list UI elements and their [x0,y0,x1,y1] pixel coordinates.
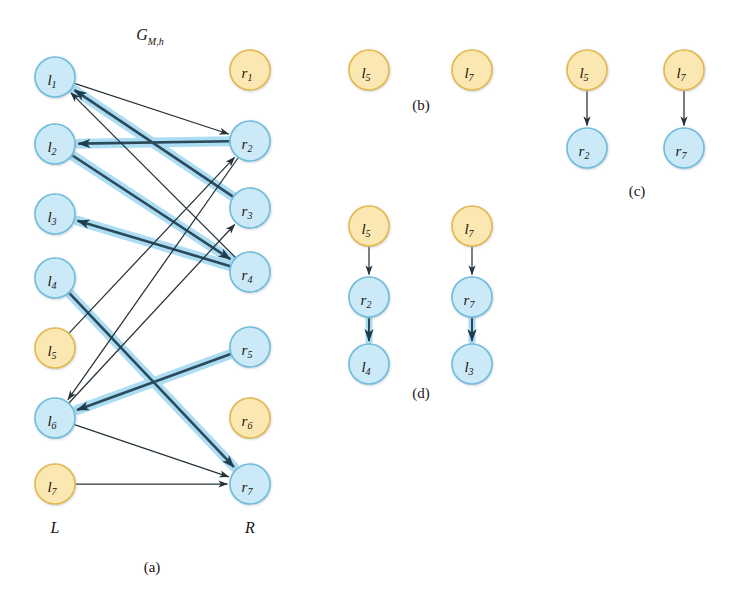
node-circle [664,128,704,168]
node-l6[interactable]: l6 [35,398,75,438]
node-subscript: 5 [247,349,252,360]
node-subscript: 4 [52,280,57,291]
node-l7[interactable]: l7 [35,464,75,504]
node-r3[interactable]: r3 [230,188,270,228]
node-circle [567,50,607,90]
node-circle [230,327,270,367]
node-c-l7[interactable]: l7 [664,50,704,90]
node-d-l5[interactable]: l5 [349,206,389,246]
node-subscript: 2 [584,150,589,161]
node-subscript: 6 [52,420,57,431]
node-circle [230,188,270,228]
node-circle [452,206,492,246]
node-subscript: 3 [51,216,57,227]
node-circle [349,277,389,317]
node-l3[interactable]: l3 [35,194,75,234]
node-d-l4[interactable]: l4 [349,344,389,384]
node-subscript: 2 [52,146,57,157]
node-subscript: 4 [247,274,252,285]
node-l5[interactable]: l5 [35,328,75,368]
node-c-l5[interactable]: l5 [567,50,607,90]
node-c-r2[interactable]: r2 [567,128,607,168]
node-circle [230,398,270,438]
node-circle [349,344,389,384]
node-d-r2[interactable]: r2 [349,277,389,317]
node-circle [452,277,492,317]
figure-canvas: l1l2l3l4l5l6l7r1r2r3r4r5r6r7l5l7l5r2l7r7… [0,0,730,600]
node-subscript: 1 [247,72,252,83]
node-layer: l1l2l3l4l5l6l7r1r2r3r4r5r6r7l5l7l5r2l7r7… [35,50,704,504]
figure-title: GM,h [136,26,163,47]
node-circle [452,50,492,90]
node-subscript: 3 [468,366,474,377]
node-subscript: 5 [366,72,371,83]
node-circle [35,194,75,234]
node-b-l7[interactable]: l7 [452,50,492,90]
node-circle [230,252,270,292]
edge-r5-to-l6 [77,354,231,410]
node-subscript: 5 [584,72,589,83]
node-circle [349,206,389,246]
node-r7[interactable]: r7 [230,464,270,504]
node-circle [664,50,704,90]
panel-d-caption: (d) [412,385,430,402]
panel-a-caption: (a) [144,559,161,576]
node-subscript: 1 [52,79,57,90]
node-r6[interactable]: r6 [230,398,270,438]
node-circle [35,57,75,97]
node-r4[interactable]: r4 [230,252,270,292]
node-circle [230,50,270,90]
node-subscript: 5 [52,350,57,361]
node-l4[interactable]: l4 [35,258,75,298]
node-d-l7[interactable]: l7 [452,206,492,246]
node-r2[interactable]: r2 [230,121,270,161]
node-circle [35,464,75,504]
node-d-l3[interactable]: l3 [452,344,492,384]
highlighted-edge-glow-layer [69,90,472,467]
node-circle [230,121,270,161]
node-c-r7[interactable]: r7 [664,128,704,168]
node-circle [35,258,75,298]
node-l1[interactable]: l1 [35,57,75,97]
node-r5[interactable]: r5 [230,327,270,367]
figure-title-subscript: M,h [147,36,164,47]
node-subscript: 2 [247,143,252,154]
node-subscript: 4 [366,366,371,377]
node-circle [567,128,607,168]
node-d-r7[interactable]: r7 [452,277,492,317]
node-circle [452,344,492,384]
panel-c-caption: (c) [629,183,646,200]
panel-a-right-column-label: R [244,519,255,536]
node-circle [35,328,75,368]
node-subscript: 6 [247,420,252,431]
panel-b-caption: (b) [412,97,430,114]
edge-l4-to-r7 [69,293,234,467]
node-circle [35,124,75,164]
node-b-l5[interactable]: l5 [349,50,389,90]
node-circle [349,50,389,90]
graph-figure: l1l2l3l4l5l6l7r1r2r3r4r5r6r7l5l7l5r2l7r7… [0,0,730,600]
node-l2[interactable]: l2 [35,124,75,164]
node-r1[interactable]: r1 [230,50,270,90]
node-subscript: 2 [366,299,371,310]
node-subscript: 3 [246,210,252,221]
text-layer: GM,hLR(a)(b)(c)(d) [50,26,646,576]
panel-a-left-column-label: L [50,519,60,536]
node-circle [35,398,75,438]
node-subscript: 5 [366,228,371,239]
node-circle [230,464,270,504]
